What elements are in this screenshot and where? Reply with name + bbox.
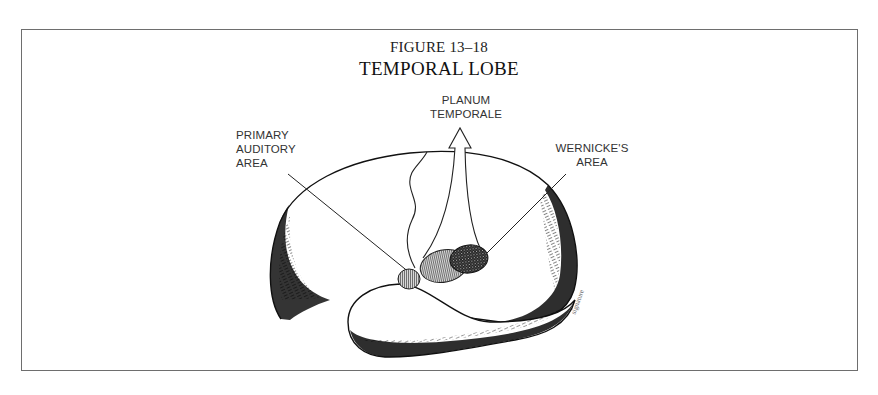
brain-illustration	[0, 0, 878, 395]
region-primary-auditory-area	[398, 269, 420, 289]
